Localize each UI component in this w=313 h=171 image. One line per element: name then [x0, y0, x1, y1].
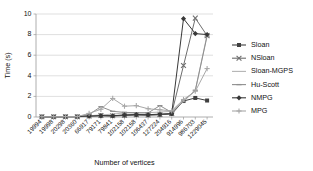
- ytick-label: 2: [28, 92, 32, 99]
- legend-item-sloan[interactable]: Sloan: [232, 40, 269, 49]
- marker-square: [193, 96, 197, 100]
- legend-label: MPG: [251, 106, 268, 115]
- marker-square: [205, 99, 209, 103]
- marker-square: [237, 43, 241, 47]
- legend-label: Hu-Scott: [251, 80, 279, 89]
- marker-diamond: [236, 95, 241, 100]
- ytick-label: 6: [28, 51, 32, 58]
- legend-item-nsloan[interactable]: NSloan: [232, 53, 275, 62]
- ytick-label: 4: [28, 72, 32, 79]
- x-axis-title: Number of vertices: [94, 158, 155, 167]
- ytick-label: 0: [28, 113, 32, 120]
- legend-item-mpg[interactable]: MPG: [232, 106, 268, 115]
- legend-item-sloan-mgps[interactable]: Sloan-MGPS: [232, 66, 293, 75]
- chart-container: 0246810199941999820298203606691779171798…: [0, 0, 313, 171]
- ytick-label: 8: [28, 30, 32, 37]
- legend-label: Sloan: [251, 40, 269, 49]
- series-mpg: [39, 66, 209, 119]
- legend-label: Sloan-MGPS: [251, 66, 293, 75]
- y-axis-title: Time (s): [3, 52, 12, 78]
- legend-item-hu-scott[interactable]: Hu-Scott: [232, 80, 279, 89]
- ytick-label: 10: [24, 10, 32, 17]
- time-vs-vertices-line-chart: 0246810199941999820298203606691779171798…: [0, 0, 313, 171]
- legend-label: NSloan: [251, 53, 275, 62]
- legend-label: NMPG: [251, 93, 273, 102]
- legend-item-nmpg[interactable]: NMPG: [232, 93, 273, 102]
